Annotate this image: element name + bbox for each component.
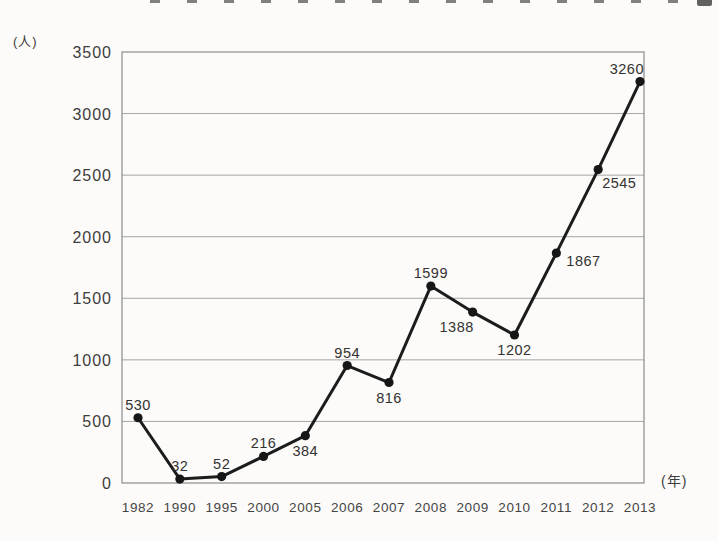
data-point xyxy=(384,378,393,387)
data-point xyxy=(635,77,644,86)
point-value-label: 384 xyxy=(292,443,318,459)
line-chart: 0500100015002000250030003500198219901995… xyxy=(0,0,718,541)
y-axis-tick-label: 3000 xyxy=(72,106,112,123)
x-axis-tick-label: 1995 xyxy=(205,500,237,515)
point-value-label: 216 xyxy=(251,435,277,451)
data-point xyxy=(552,248,561,257)
x-axis-tick-label: 2011 xyxy=(541,500,572,515)
point-value-label: 1599 xyxy=(414,265,448,281)
data-point xyxy=(217,472,226,481)
x-axis-tick-label: 2012 xyxy=(582,500,614,515)
data-point xyxy=(259,452,268,461)
data-point xyxy=(510,330,519,339)
x-axis-tick-label: 2009 xyxy=(456,500,488,515)
data-point xyxy=(594,165,603,174)
scanned-chart-page: (人) (年) 05001000150020002500300035001982… xyxy=(0,0,718,541)
y-axis-tick-label: 3500 xyxy=(72,44,112,61)
x-axis-tick-label: 2000 xyxy=(247,500,279,515)
point-value-label: 1867 xyxy=(566,253,600,269)
x-axis-tick-label: 2010 xyxy=(498,500,530,515)
x-axis-tick-label: 1982 xyxy=(122,500,154,515)
data-point xyxy=(175,474,184,483)
y-axis-tick-label: 0 xyxy=(102,475,112,492)
point-value-label: 1388 xyxy=(440,319,474,335)
y-axis-tick-label: 2500 xyxy=(72,167,112,184)
point-value-label: 954 xyxy=(334,345,360,361)
data-line xyxy=(138,82,640,480)
point-value-label: 1202 xyxy=(497,342,531,358)
y-axis-tick-label: 2000 xyxy=(72,229,112,246)
data-point xyxy=(468,307,477,316)
y-axis-tick-label: 500 xyxy=(82,413,112,430)
x-axis-tick-label: 2008 xyxy=(415,500,447,515)
data-point xyxy=(343,361,352,370)
point-value-label: 530 xyxy=(125,397,151,413)
x-axis-tick-label: 2013 xyxy=(624,500,656,515)
point-value-label: 52 xyxy=(213,456,230,472)
data-point xyxy=(426,281,435,290)
y-axis-tick-label: 1000 xyxy=(72,352,112,369)
point-value-label: 32 xyxy=(171,458,188,474)
x-axis-tick-label: 1990 xyxy=(164,500,196,515)
data-point xyxy=(133,413,142,422)
x-axis-tick-label: 2006 xyxy=(331,500,363,515)
x-axis-tick-label: 2005 xyxy=(289,500,321,515)
point-value-label: 816 xyxy=(376,390,402,406)
data-point xyxy=(301,431,310,440)
x-axis-tick-label: 2007 xyxy=(373,500,405,515)
point-value-label: 2545 xyxy=(602,175,636,191)
y-axis-tick-label: 1500 xyxy=(72,290,112,307)
point-value-label: 3260 xyxy=(610,61,644,77)
